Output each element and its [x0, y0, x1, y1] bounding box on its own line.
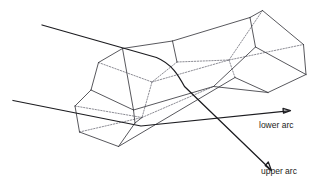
prism-edge-left-cap-lower [75, 106, 80, 132]
prism-edge-top-ridge-c [250, 11, 263, 18]
hidden-edge [229, 11, 263, 61]
ray-path-diagram: lower arc upper arc [0, 0, 320, 184]
prism-edge-right-face-divider-b [214, 47, 256, 87]
prism-edge-mid-face-divider-a [173, 41, 178, 62]
prism-edge-left-inner-diag [91, 90, 134, 110]
prism-edge-right-cap-bottom [235, 78, 268, 93]
prism-edge-right-cap-side [304, 45, 307, 75]
hidden-edge [75, 106, 142, 118]
prism-edge-left-cap-bottom [80, 132, 119, 147]
hidden-edge [152, 60, 229, 82]
prism-edge-bottom-tip-a [119, 123, 136, 147]
hidden-edge [142, 82, 152, 118]
upper-arc-ray [42, 25, 270, 169]
prism-edge-right-face-divider-a [256, 47, 307, 75]
rays-group [13, 25, 289, 169]
hidden-edge [177, 60, 229, 62]
prism-edge-left-cap-upper [91, 63, 99, 91]
prism-edge-top-ridge-a [123, 41, 173, 49]
prism-edge-right-cap-upper [263, 11, 304, 45]
hidden-edge [142, 87, 214, 118]
hidden-edges-group [75, 11, 304, 133]
prism-edge-top-ridge-b [173, 18, 251, 42]
hidden-edge [152, 62, 177, 82]
prism-edge-bottom-ridge-b [214, 87, 269, 93]
arrowheads-group [265, 108, 290, 170]
lower-arc-ray [13, 101, 289, 127]
upper-arc-label: upper arc [261, 166, 298, 176]
prism-edge-left-cap-mid [75, 90, 91, 106]
prism-edge-bottom-ridge-a [134, 87, 214, 111]
prism-edge-right-cap-lower [268, 75, 306, 93]
prism-edge-left-face-divider [123, 49, 134, 111]
hidden-edge [229, 45, 304, 61]
prism-edge-lower-long-face [119, 78, 236, 147]
crystal-diagram-canvas: lower arc upper arc [0, 0, 320, 184]
prism-edge-top-left-facet [99, 49, 123, 63]
lower-arc-label: lower arc [259, 120, 294, 130]
prism-edge-mid-face-divider-b [250, 18, 256, 48]
